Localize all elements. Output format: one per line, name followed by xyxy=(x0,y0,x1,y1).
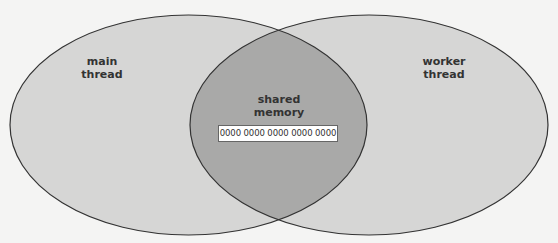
worker-thread-label: worker thread xyxy=(414,55,474,81)
venn-shapes xyxy=(0,0,558,243)
worker-thread-label-line-2: thread xyxy=(414,68,474,81)
venn-diagram: main thread worker thread shared memory … xyxy=(0,0,558,243)
shared-memory-buffer: 0000 0000 0000 0000 0000 xyxy=(218,125,338,142)
main-thread-label-line-1: main xyxy=(74,55,130,68)
worker-thread-label-line-1: worker xyxy=(414,55,474,68)
shared-memory-label-line-1: shared xyxy=(244,93,314,106)
main-thread-label-line-2: thread xyxy=(74,68,130,81)
main-thread-label: main thread xyxy=(74,55,130,81)
shared-memory-label: shared memory xyxy=(244,93,314,119)
shared-memory-label-line-2: memory xyxy=(244,106,314,119)
